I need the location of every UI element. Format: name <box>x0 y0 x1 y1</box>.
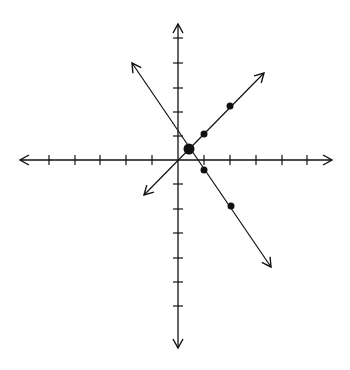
line-positive-slope <box>204 73 264 134</box>
coordinate-graph <box>0 0 350 370</box>
line-negative-slope <box>202 165 272 267</box>
plotted-points <box>184 103 235 210</box>
data-point <box>201 167 208 174</box>
line-positive-slope <box>144 134 204 195</box>
plotted-lines <box>132 63 271 267</box>
data-point <box>201 131 208 138</box>
data-point <box>228 203 235 210</box>
data-point <box>227 103 234 110</box>
intersection-point <box>184 144 195 155</box>
axes <box>20 24 332 348</box>
